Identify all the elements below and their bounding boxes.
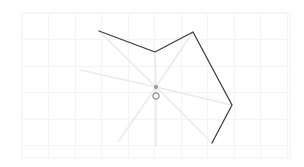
app-root	[0, 0, 304, 167]
pivot-dot-icon[interactable]	[154, 85, 157, 88]
drawing-canvas[interactable]	[0, 0, 304, 167]
guide-ray	[155, 52, 156, 87]
pivot-ring-icon[interactable]	[153, 93, 159, 99]
